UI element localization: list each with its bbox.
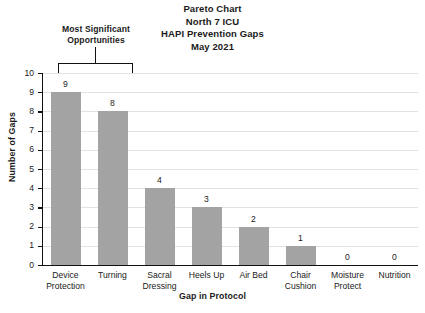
x-axis-category-label: Nutrition: [369, 270, 421, 281]
x-axis-category-label: MoistureProtect: [322, 270, 374, 291]
x-axis-category-label-line: Cushion: [275, 281, 327, 292]
x-axis-category-label-line: Heels Up: [181, 270, 233, 281]
x-axis-category-label-line: Air Bed: [228, 270, 280, 281]
x-axis-category-label-line: Turning: [87, 270, 139, 281]
annotation-bracket: [58, 63, 133, 73]
bar-value-label: 2: [234, 215, 274, 224]
x-axis-category-label-line: Dressing: [134, 281, 186, 292]
y-axis-tick-label: 7: [8, 126, 34, 135]
y-axis-tick-label: 2: [8, 222, 34, 231]
chart-title-line-1: Pareto Chart: [0, 3, 425, 16]
y-axis-tick-label: 10: [8, 69, 34, 78]
bar-value-label: 4: [140, 176, 180, 185]
bar-value-label: 0: [328, 253, 368, 262]
y-axis-tick-label: 5: [8, 165, 34, 174]
bar-value-label: 1: [281, 234, 321, 243]
x-axis-category-label-line: Protect: [322, 281, 374, 292]
y-axis-tick-label: 6: [8, 145, 34, 154]
bar[interactable]: [145, 188, 175, 265]
bar[interactable]: [239, 227, 269, 265]
x-axis-category-label-line: Moisture: [322, 270, 374, 281]
x-axis-category-label-line: Protection: [40, 281, 92, 292]
x-axis-category-label-line: Device: [40, 270, 92, 281]
y-axis-tick-label: 8: [8, 107, 34, 116]
x-axis-category-label-line: Sacral: [134, 270, 186, 281]
annotation-caption-line-2: Opportunities: [34, 35, 158, 46]
x-axis-title: Gap in Protocol: [0, 291, 425, 301]
x-axis-category-label-line: Nutrition: [369, 270, 421, 281]
y-axis-tick-label: 9: [8, 88, 34, 97]
annotation-stem: [95, 47, 96, 63]
bar[interactable]: [192, 207, 222, 265]
bar-value-label: 9: [46, 80, 86, 89]
annotation-caption-line-1: Most Significant: [34, 24, 158, 35]
pareto-chart: Pareto Chart North 7 ICU HAPI Prevention…: [0, 0, 425, 313]
x-axis-category-label: ChairCushion: [275, 270, 327, 291]
bar-value-label: 3: [187, 195, 227, 204]
bar-value-label: 8: [93, 99, 133, 108]
x-axis-category-label: SacralDressing: [134, 270, 186, 291]
bar[interactable]: [51, 92, 81, 265]
bar-value-label: 0: [375, 253, 415, 262]
x-axis-category-label: DeviceProtection: [40, 270, 92, 291]
x-axis-category-label-line: Chair: [275, 270, 327, 281]
x-axis-category-label: Heels Up: [181, 270, 233, 281]
x-axis-category-label: Turning: [87, 270, 139, 281]
annotation-caption: Most Significant Opportunities: [34, 24, 158, 46]
x-axis-category-label: Air Bed: [228, 270, 280, 281]
y-axis-tick-label: 4: [8, 184, 34, 193]
bar[interactable]: [98, 111, 128, 265]
y-axis-tick-label: 0: [8, 261, 34, 270]
bar[interactable]: [286, 246, 316, 265]
y-axis-tick-label: 3: [8, 203, 34, 212]
y-axis-tick-label: 1: [8, 241, 34, 250]
